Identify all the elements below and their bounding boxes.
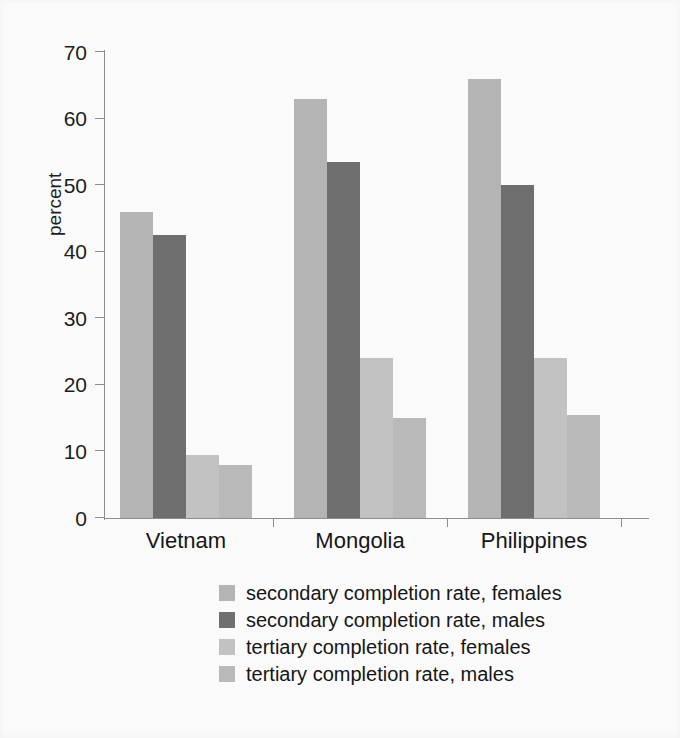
y-tick-label-30: 30: [64, 307, 87, 328]
y-tick-30: 30: [95, 317, 104, 318]
legend-item: tertiary completion rate, males: [219, 660, 562, 687]
category-label-mongolia: Mongolia: [315, 528, 404, 554]
y-tick-10: 10: [95, 450, 104, 451]
bar: [186, 455, 219, 518]
legend-item: secondary completion rate, females: [219, 579, 562, 606]
bar: [219, 465, 252, 518]
category-label-vietnam: Vietnam: [146, 528, 226, 554]
plot-area: 010203040506070: [104, 52, 648, 518]
bar: [294, 99, 327, 518]
legend-label: secondary completion rate, males: [246, 610, 545, 630]
bar: [567, 415, 600, 518]
x-tick-separator-0: [273, 518, 274, 527]
legend-label: tertiary completion rate, females: [246, 637, 531, 657]
y-tick-40: 40: [95, 251, 104, 252]
legend-swatch-icon: [219, 666, 235, 682]
legend-label: tertiary completion rate, males: [246, 664, 514, 684]
y-tick-label-40: 40: [64, 241, 87, 262]
y-tick-label-0: 0: [75, 507, 87, 528]
y-tick-label-10: 10: [64, 440, 87, 461]
bar: [393, 418, 426, 518]
category-label-philippines: Philippines: [481, 528, 587, 554]
legend-swatch-icon: [219, 612, 235, 628]
bar: [153, 235, 186, 518]
bar: [360, 358, 393, 518]
y-tick-20: 20: [95, 384, 104, 385]
x-tick-separator-2: [621, 518, 622, 527]
legend-item: secondary completion rate, males: [219, 606, 562, 633]
y-tick-60: 60: [95, 118, 104, 119]
bar-chart-figure: percent 010203040506070 VietnamMongoliaP…: [0, 0, 680, 738]
bar: [120, 212, 153, 518]
bar: [534, 358, 567, 518]
chart-legend: secondary completion rate, femalessecond…: [219, 579, 562, 687]
legend-item: tertiary completion rate, females: [219, 633, 562, 660]
bar: [501, 185, 534, 518]
x-tick-separator-1: [447, 518, 448, 527]
y-tick-label-70: 70: [64, 41, 87, 62]
y-tick-label-20: 20: [64, 374, 87, 395]
bar: [468, 79, 501, 518]
legend-swatch-icon: [219, 585, 235, 601]
y-tick-label-60: 60: [64, 108, 87, 129]
legend-label: secondary completion rate, females: [246, 583, 562, 603]
legend-swatch-icon: [219, 639, 235, 655]
y-tick-label-50: 50: [64, 174, 87, 195]
bar: [327, 162, 360, 518]
y-tick-50: 50: [95, 184, 104, 185]
y-tick-70: 70: [95, 51, 104, 52]
x-axis-line: [104, 518, 649, 519]
y-tick-0: 0: [95, 517, 104, 518]
